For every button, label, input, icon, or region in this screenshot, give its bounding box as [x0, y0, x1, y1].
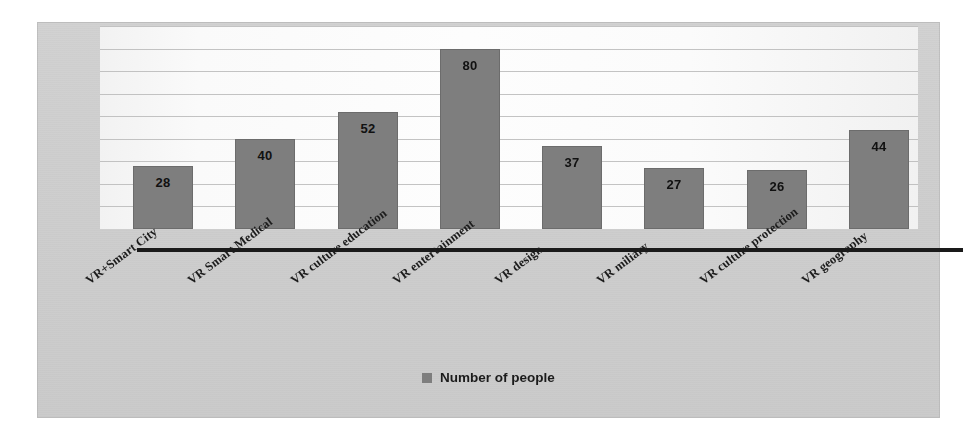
- bar-value-label: 26: [747, 179, 807, 194]
- plot-area: 2840528037272644: [100, 26, 918, 229]
- bar-value-label: 40: [235, 148, 295, 163]
- bar: 44: [849, 130, 909, 229]
- bar: 27: [644, 168, 704, 229]
- bar-value-label: 28: [133, 175, 193, 190]
- x-axis-label: VR miliary: [594, 239, 652, 288]
- x-axis-category-labels: VR+Smart CityVR Smart MedicalVR culture …: [37, 254, 940, 374]
- x-axis-label: VR+Smart City: [83, 224, 161, 288]
- bar: 80: [440, 49, 500, 229]
- chart-legend: Number of people: [37, 370, 940, 385]
- bar-chart-panel: 2840528037272644 VR+Smart CityVR Smart M…: [37, 22, 940, 418]
- legend-label: Number of people: [440, 370, 555, 385]
- bar-value-label: 52: [338, 121, 398, 136]
- x-axis-label: VR geography: [799, 229, 871, 288]
- legend-color-swatch: [422, 373, 432, 383]
- bar-series-number-of-people: 2840528037272644: [100, 26, 918, 229]
- bar-value-label: 37: [542, 155, 602, 170]
- scanned-page: 2840528037272644 VR+Smart CityVR Smart M…: [0, 0, 977, 440]
- bar: 37: [542, 146, 602, 229]
- bar-value-label: 44: [849, 139, 909, 154]
- bar: 52: [338, 112, 398, 229]
- bar-value-label: 80: [440, 58, 500, 73]
- bar: 28: [133, 166, 193, 229]
- bar-value-label: 27: [644, 177, 704, 192]
